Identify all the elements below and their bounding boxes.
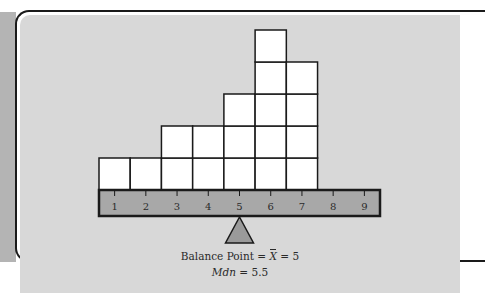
- score-block: [130, 158, 161, 190]
- score-block: [161, 158, 192, 190]
- median-caption: Mdn = 5.5: [140, 266, 340, 278]
- tick-label: 1: [111, 201, 117, 212]
- mean-symbol-letter: X: [269, 250, 276, 262]
- balance-point-caption: Balance Point = X = 5: [140, 250, 340, 262]
- median-value: 5.5: [252, 266, 269, 278]
- score-block: [286, 94, 317, 126]
- score-block: [255, 158, 286, 190]
- score-block: [286, 62, 317, 94]
- score-block: [255, 62, 286, 94]
- tick-label: 5: [236, 201, 242, 212]
- tick-label: 4: [205, 201, 211, 212]
- tick-label: 3: [174, 201, 180, 212]
- tick-label: 9: [361, 201, 367, 212]
- mean-value: 5: [292, 250, 299, 262]
- score-block: [193, 158, 224, 190]
- tick-label: 6: [268, 201, 274, 212]
- fulcrum-triangle: [226, 217, 254, 243]
- equals-sign: =: [280, 250, 289, 262]
- mean-symbol: X: [269, 250, 276, 262]
- score-block: [255, 94, 286, 126]
- score-block: [161, 126, 192, 158]
- tick-label: 2: [143, 201, 149, 212]
- score-block: [286, 158, 317, 190]
- equals-sign: =: [239, 266, 248, 278]
- score-block: [224, 94, 255, 126]
- score-block: [255, 30, 286, 62]
- score-block: [224, 126, 255, 158]
- score-block: [255, 126, 286, 158]
- tick-label: 7: [299, 201, 305, 212]
- balance-point-label: Balance Point: [181, 250, 254, 262]
- tick-label: 8: [330, 201, 336, 212]
- score-block: [224, 158, 255, 190]
- score-block: [193, 126, 224, 158]
- score-block: [286, 126, 317, 158]
- score-block: [99, 158, 130, 190]
- median-label: Mdn: [212, 266, 236, 278]
- equals-sign: =: [257, 250, 266, 262]
